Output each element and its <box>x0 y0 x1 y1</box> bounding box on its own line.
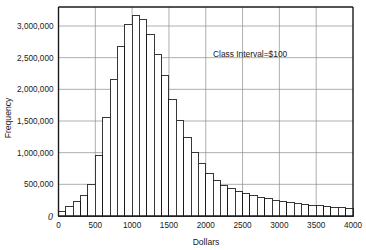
histogram-bar-19 <box>198 163 205 216</box>
histogram-bar-26 <box>250 196 257 216</box>
histogram-bar-5 <box>95 156 102 216</box>
x-tick-label: 0 <box>56 221 61 230</box>
histogram-bar-25 <box>243 194 250 216</box>
histogram-bar-8 <box>117 47 124 216</box>
x-tick-label: 2000 <box>197 221 216 230</box>
histogram-bar-11 <box>139 19 146 216</box>
histogram-bar-20 <box>206 173 213 216</box>
histogram-bar-3 <box>81 195 88 216</box>
histogram-bar-27 <box>257 197 264 216</box>
histogram-chart: 500,0001,000,0001,500,0002,000,0002,500,… <box>0 0 366 250</box>
x-tick-label: 4000 <box>344 221 363 230</box>
histogram-bar-12 <box>147 34 154 216</box>
y-tick-label: 500,000 <box>24 180 54 189</box>
histogram-bar-33 <box>301 204 308 216</box>
histogram-bar-29 <box>272 200 279 216</box>
x-tick-label: 1000 <box>123 221 142 230</box>
x-axis-title: Dollars <box>193 237 220 247</box>
histogram-bar-35 <box>316 206 323 216</box>
x-tick-label: 3500 <box>307 221 326 230</box>
histogram-bar-16 <box>176 120 183 216</box>
histogram-bar-28 <box>265 199 272 216</box>
histogram-bar-39 <box>346 208 353 216</box>
origin-zero-label: 0 <box>48 211 53 222</box>
histogram-bar-21 <box>213 181 220 216</box>
histogram-bar-17 <box>184 137 191 216</box>
x-tick-label: 3000 <box>270 221 289 230</box>
y-tick-label: 1,000,000 <box>17 149 54 158</box>
y-tick-label: 2,000,000 <box>17 85 54 94</box>
histogram-bar-1 <box>66 207 73 217</box>
x-tick-label: 1500 <box>160 221 179 230</box>
histogram-bar-13 <box>154 54 161 216</box>
histogram-bar-38 <box>338 208 345 216</box>
histogram-bar-15 <box>169 100 176 216</box>
y-tick-label: 3,000,000 <box>17 22 54 31</box>
histogram-bar-37 <box>331 207 338 216</box>
y-tick-label: 1,500,000 <box>17 117 54 126</box>
histogram-bar-2 <box>73 202 80 216</box>
x-tick-label: 2500 <box>233 221 252 230</box>
histogram-bar-6 <box>103 118 110 216</box>
histogram-bar-32 <box>294 203 301 216</box>
histogram-bar-18 <box>191 152 198 216</box>
histogram-bar-22 <box>220 186 227 216</box>
histogram-bar-31 <box>287 202 294 216</box>
histogram-bar-34 <box>309 205 316 216</box>
y-tick-label: 2,500,000 <box>17 54 54 63</box>
histogram-bar-9 <box>125 25 132 216</box>
histogram-bar-7 <box>110 80 117 216</box>
histogram-bar-36 <box>324 207 331 217</box>
histogram-bar-10 <box>132 16 139 216</box>
histogram-bar-30 <box>279 201 286 216</box>
histogram-bar-24 <box>235 192 242 216</box>
histogram-bar-23 <box>228 189 235 216</box>
y-axis-title: Frequency <box>3 97 13 138</box>
histogram-bar-14 <box>162 76 169 216</box>
histogram-bar-4 <box>88 184 95 216</box>
class-interval-annotation: Class Interval=$100 <box>213 49 288 59</box>
x-tick-label: 500 <box>88 221 102 230</box>
x-axis-tick-labels: 05001000150020002500300035004000 <box>56 221 362 230</box>
y-axis-tick-labels: 500,0001,000,0001,500,0002,000,0002,500,… <box>17 22 54 189</box>
histogram-figure: 500,0001,000,0001,500,0002,000,0002,500,… <box>0 0 366 250</box>
